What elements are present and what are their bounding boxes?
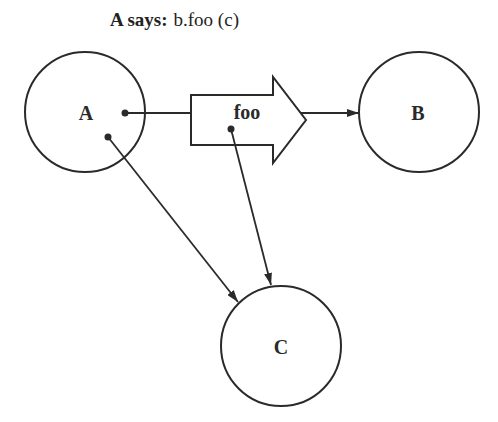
node-a-label: A [79,102,94,124]
node-b-label: B [411,102,424,124]
edge-a-to-foo [122,110,192,117]
node-c-label: C [274,336,288,358]
message-arrow-label: foo [234,101,261,123]
edge-foo-to-c [228,126,272,286]
node-c: C [221,286,341,406]
diagram-canvas: A B C foo [0,0,498,422]
edge-a-c-origin-dot [105,134,112,141]
edge-a-to-c [105,134,239,303]
edge-foo-c-origin-dot [228,126,235,133]
message-arrow-foo: foo [191,77,306,163]
edge-a-foo-origin-dot [122,110,129,117]
node-b: B [359,52,479,172]
